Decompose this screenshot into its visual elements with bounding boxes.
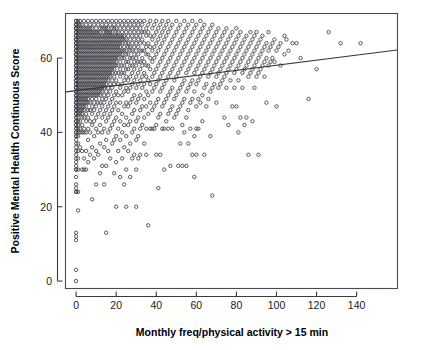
y-tick-label: 60 — [40, 52, 52, 64]
x-tick-label: 20 — [110, 299, 122, 311]
scatter-plot-figure: 020406080100120140 0204060 Monthly freq/… — [0, 0, 428, 350]
x-tick-label: 80 — [231, 299, 243, 311]
y-axis-title: Positive Mental Health Continuous Score — [9, 48, 21, 253]
x-tick-label: 120 — [308, 299, 326, 311]
x-tick-label: 40 — [150, 299, 162, 311]
x-tick-label: 0 — [73, 299, 79, 311]
x-tick-label: 100 — [268, 299, 286, 311]
y-tick-label: 40 — [40, 126, 52, 138]
plot-canvas: 020406080100120140 0204060 Monthly freq/… — [0, 0, 428, 350]
x-tick-label: 140 — [348, 299, 366, 311]
x-axis-title: Monthly freq/physical activity > 15 min — [136, 326, 328, 338]
y-tick-label: 0 — [46, 275, 52, 287]
x-tick-label: 60 — [190, 299, 202, 311]
y-tick-label: 20 — [40, 201, 52, 213]
